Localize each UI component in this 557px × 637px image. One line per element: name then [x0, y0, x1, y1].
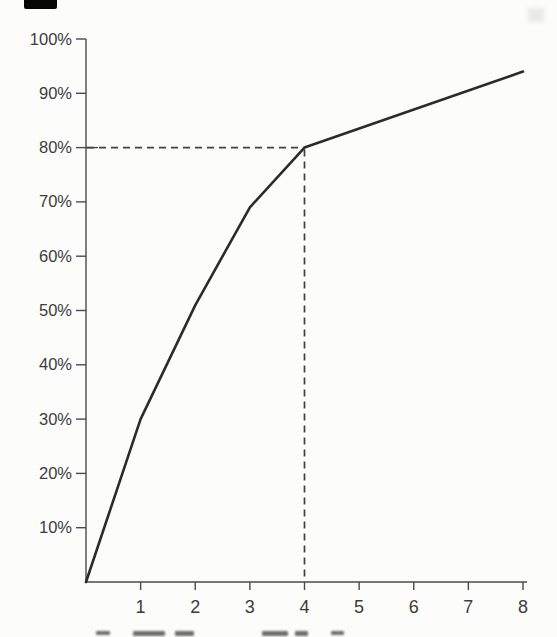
y-tick-label: 100%: [30, 30, 73, 48]
caption-letter-tops: [175, 631, 194, 636]
x-tick-label: 5: [354, 597, 364, 617]
y-tick-label: 30%: [39, 410, 72, 428]
x-tick-label: 2: [190, 597, 200, 617]
cropped-caption: The …: [0, 629, 557, 637]
y-tick-label: 50%: [39, 301, 72, 319]
y-tick-label: 40%: [39, 355, 72, 373]
caption-fragment: The …: [0, 629, 1, 630]
x-tick-label: 8: [518, 597, 528, 617]
y-tick-label: 60%: [39, 247, 72, 265]
caption-letter-tops: [331, 631, 344, 635]
scanned-chart-page: 10%20%30%40%50%60%70%80%90%100%12345678 …: [0, 0, 557, 637]
x-tick-label: 4: [299, 597, 309, 617]
axes: [86, 39, 528, 583]
caption-letter-tops: [133, 631, 165, 636]
y-tick-label: 80%: [39, 138, 72, 156]
y-tick-label: 90%: [39, 84, 72, 102]
tick-marks: [76, 39, 523, 590]
dashed-guides: [87, 148, 305, 581]
y-tick-label: 20%: [39, 464, 72, 482]
x-tick-label: 3: [245, 597, 255, 617]
cumulative-curve-chart: 10%20%30%40%50%60%70%80%90%100%12345678: [0, 0, 557, 637]
y-tick-label: 70%: [39, 192, 72, 210]
caption-letter-tops: [262, 631, 288, 636]
y-tick-label: 10%: [39, 518, 72, 536]
x-tick-label: 6: [409, 597, 419, 617]
caption-letter-tops: [96, 631, 110, 635]
chart-canvas: 10%20%30%40%50%60%70%80%90%100%12345678: [0, 0, 557, 637]
x-tick-label: 1: [136, 597, 146, 617]
caption-letter-tops: [295, 631, 308, 636]
x-tick-label: 7: [463, 597, 473, 617]
